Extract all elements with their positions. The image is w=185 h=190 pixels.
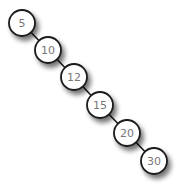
node-label: 30 — [147, 155, 161, 168]
tree-node-15: 15 — [87, 92, 113, 118]
node-label: 20 — [120, 127, 134, 140]
node-label: 5 — [19, 17, 26, 30]
bst-diagram: 51012152030 — [0, 0, 185, 190]
tree-node-10: 10 — [35, 37, 61, 63]
tree-node-5: 5 — [9, 10, 35, 36]
node-label: 15 — [93, 99, 107, 112]
tree-node-30: 30 — [141, 148, 167, 174]
node-label: 12 — [67, 71, 81, 84]
tree-node-12: 12 — [61, 64, 87, 90]
node-label: 10 — [41, 44, 55, 57]
tree-node-20: 20 — [114, 120, 140, 146]
